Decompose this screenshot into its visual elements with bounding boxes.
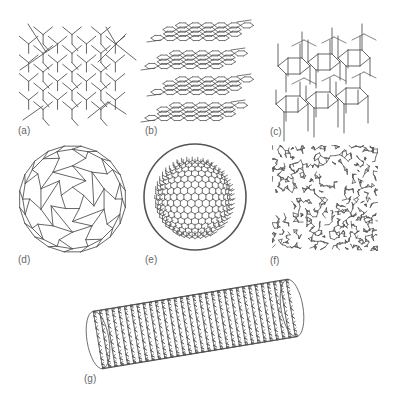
panel-label-b: (b): [145, 126, 157, 136]
panel-label-d: (d): [18, 255, 30, 265]
c60-fullerene-drawing: [20, 146, 126, 252]
lonsdaleite-lattice-drawing: [276, 24, 376, 141]
panel-label-c: (c): [270, 127, 282, 137]
carbon-nanotube-drawing: [82, 278, 307, 371]
diamond-lattice-drawing: [19, 24, 136, 126]
c540-fullerene-drawing: [144, 144, 246, 250]
graphite-layers-drawing: [141, 20, 254, 122]
panel-label-e: (e): [145, 255, 157, 265]
panel-label-a: (a): [18, 126, 30, 136]
carbon-allotropes-figure: (a) (b) (c) (d) (e) (f) (g): [0, 0, 396, 397]
panel-label-f: (f): [270, 256, 279, 266]
amorphous-carbon-drawing: [272, 145, 378, 251]
panel-label-g: (g): [84, 374, 96, 384]
structure-drawings: [0, 0, 396, 397]
